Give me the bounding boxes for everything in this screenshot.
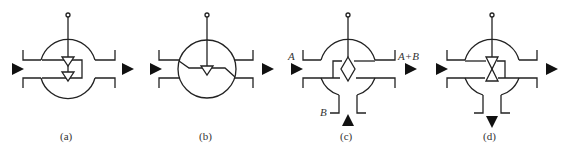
caption-c: (c) [340,130,352,142]
panel-a-device [23,13,115,99]
label-inlet-b: B [320,106,327,118]
caption-b: (b) [199,130,212,142]
caption-d: (d) [483,130,496,142]
panel-d-device [447,13,537,113]
diagram-canvas [0,0,566,151]
caption-a: (a) [60,130,72,142]
panel-c-device [303,13,395,113]
label-outlet-a-plus-b: A+B [398,50,419,62]
panel-b-device [159,13,253,98]
label-inlet-a: A [288,50,295,62]
